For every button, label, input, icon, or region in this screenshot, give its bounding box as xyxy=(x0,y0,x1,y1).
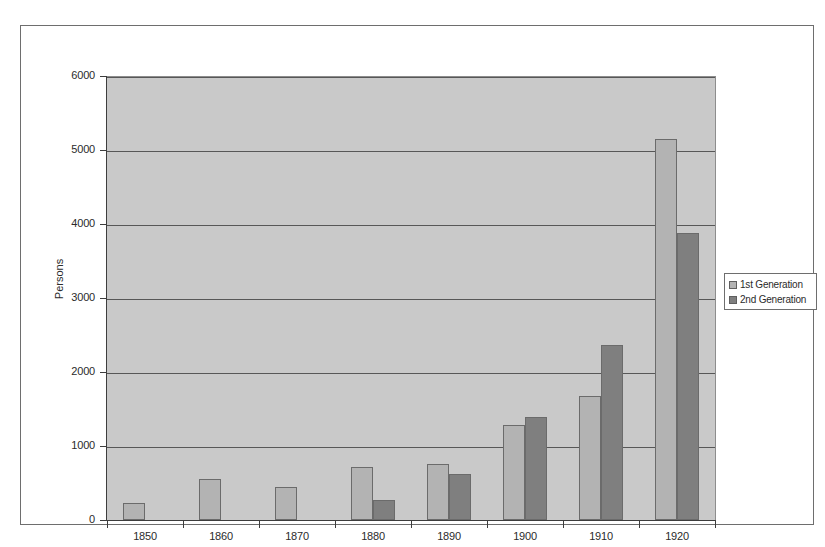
bar-1920-series2 xyxy=(677,233,699,520)
y-tick-label: 5000 xyxy=(35,144,95,155)
chart-legend: 1st Generation2nd Generation xyxy=(724,273,817,310)
x-tick-mark xyxy=(107,521,108,528)
gridline xyxy=(107,225,715,226)
y-tick-label: 1000 xyxy=(35,440,95,451)
gridline xyxy=(107,77,715,78)
x-tick-label-1870: 1870 xyxy=(259,530,335,542)
legend-item-first-generation: 1st Generation xyxy=(729,277,812,292)
y-tick-label-wrap: 1000 xyxy=(29,440,95,451)
bar-1900-series2 xyxy=(525,417,547,520)
bar-1910-series2 xyxy=(601,345,623,520)
y-tick-label: 0 xyxy=(35,514,95,525)
x-tick-mark xyxy=(563,521,564,528)
bar-1890-series2 xyxy=(449,474,471,520)
y-tick-label-wrap: 0 xyxy=(29,514,95,525)
x-tick-mark xyxy=(487,521,488,528)
x-tick-label-1880: 1880 xyxy=(335,530,411,542)
y-tick-label-wrap: 6000 xyxy=(29,70,95,81)
gridline xyxy=(107,299,715,300)
x-tick-mark xyxy=(411,521,412,528)
y-tick-label: 2000 xyxy=(35,366,95,377)
x-tick-mark xyxy=(335,521,336,528)
chart-figure: 0100020003000400050006000 18501860187018… xyxy=(0,0,825,547)
legend-item-second-generation: 2nd Generation xyxy=(729,292,812,307)
y-tick-label-wrap: 5000 xyxy=(29,144,95,155)
bar-1850-series1 xyxy=(123,503,145,520)
y-tick-label-wrap: 2000 xyxy=(29,366,95,377)
bar-1870-series1 xyxy=(275,487,297,520)
y-axis-title: Persons xyxy=(53,272,65,286)
gridline xyxy=(107,373,715,374)
bar-1910-series1 xyxy=(579,396,601,520)
bar-1900-series1 xyxy=(503,425,525,520)
x-tick-mark xyxy=(183,521,184,528)
legend-label: 2nd Generation xyxy=(740,294,806,305)
x-tick-label-1910: 1910 xyxy=(563,530,639,542)
gridline xyxy=(107,447,715,448)
y-tick-label: 4000 xyxy=(35,218,95,229)
plot-area xyxy=(107,76,716,521)
y-axis-line xyxy=(106,76,107,521)
x-tick-label-1900: 1900 xyxy=(487,530,563,542)
bar-1880-series2 xyxy=(373,500,395,520)
y-axis-title-text: Persons xyxy=(53,244,65,314)
y-tick-label: 6000 xyxy=(35,70,95,81)
x-tick-label-1860: 1860 xyxy=(183,530,259,542)
bar-1860-series1 xyxy=(199,479,221,520)
x-tick-label-1920: 1920 xyxy=(639,530,715,542)
legend-swatch-icon xyxy=(729,296,737,304)
bar-1880-series1 xyxy=(351,467,373,520)
legend-label: 1st Generation xyxy=(740,279,803,290)
bar-1890-series1 xyxy=(427,464,449,520)
figure-frame: 0100020003000400050006000 18501860187018… xyxy=(20,25,814,525)
x-tick-label-1850: 1850 xyxy=(107,530,183,542)
x-tick-mark xyxy=(715,521,716,528)
bar-1920-series1 xyxy=(655,139,677,520)
legend-swatch-icon xyxy=(729,281,737,289)
y-tick-label: 3000 xyxy=(35,292,95,303)
gridline xyxy=(107,151,715,152)
x-tick-mark xyxy=(259,521,260,528)
y-tick-label-wrap: 4000 xyxy=(29,218,95,229)
x-tick-label-1890: 1890 xyxy=(411,530,487,542)
x-tick-mark xyxy=(639,521,640,528)
